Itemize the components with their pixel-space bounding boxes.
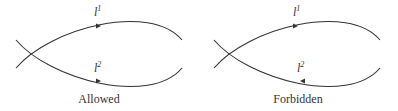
bottom-line-label: l2 xyxy=(297,60,304,75)
top-line-label: l1 xyxy=(94,4,101,19)
diagram-canvas: l1 l2 Allowed l1 l2 Forbidden xyxy=(0,0,398,111)
caption-allowed: Allowed xyxy=(78,92,119,106)
top-line-label: l1 xyxy=(293,4,300,19)
bottom-line-label: l2 xyxy=(94,60,101,75)
caption-forbidden: Forbidden xyxy=(273,92,322,106)
panel-allowed: l1 l2 Allowed xyxy=(16,4,182,106)
arrow-left-icon xyxy=(300,79,305,84)
panel-forbidden: l1 l2 Forbidden xyxy=(214,4,380,106)
arrow-right-icon xyxy=(293,24,298,29)
